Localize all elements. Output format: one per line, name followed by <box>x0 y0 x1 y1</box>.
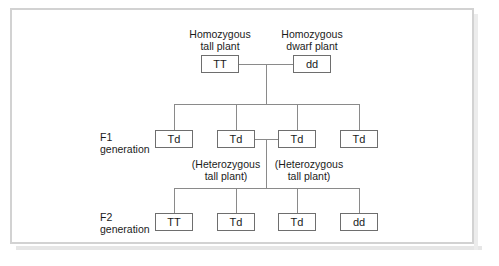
f1-drop-1 <box>174 104 175 130</box>
f1-drop-2 <box>236 104 237 130</box>
parent-left-caption-line1: Homozygous <box>180 28 260 40</box>
f2-drop-4 <box>359 188 360 213</box>
f2-drop-3 <box>297 188 298 213</box>
f1-annotation-1-line1: (Heterozygous <box>186 158 266 170</box>
f1-drop-4 <box>359 104 360 130</box>
f2-box-2[interactable]: Td <box>217 213 255 231</box>
f2-distribution-bus <box>174 188 359 189</box>
f1-box-4[interactable]: Td <box>340 130 378 148</box>
f1-row-label-line1: F1 <box>100 131 112 143</box>
f1-annotation-2-line2: tall plant) <box>269 170 349 182</box>
f2-drop-1 <box>174 188 175 213</box>
f1-distribution-bus <box>174 104 359 105</box>
f2-drop-2 <box>236 188 237 213</box>
f2-box-1[interactable]: TT <box>155 213 193 231</box>
f2-row-label-line1: F2 <box>100 211 112 223</box>
f1-annotation-2-line1: (Heterozygous <box>269 158 349 170</box>
f1-box-1[interactable]: Td <box>155 130 193 148</box>
parent-box-dd[interactable]: dd <box>293 55 331 73</box>
f1-box-2[interactable]: Td <box>217 130 255 148</box>
f2-row-label-line2: generation <box>100 223 150 235</box>
f1-to-f2-drop <box>266 139 267 188</box>
parent-right-caption-line1: Homozygous <box>270 28 354 40</box>
genetics-cross-diagram: Homozygous tall plant Homozygous dwarf p… <box>0 0 499 266</box>
f1-annotation-1-line2: tall plant) <box>186 170 266 182</box>
parent-to-f1-drop <box>266 64 267 104</box>
f1-drop-3 <box>297 104 298 130</box>
f2-box-3[interactable]: Td <box>278 213 316 231</box>
f1-row-label-line2: generation <box>100 143 150 155</box>
f2-box-4[interactable]: dd <box>340 213 378 231</box>
parent-left-caption-line2: tall plant <box>180 40 260 52</box>
parent-box-tt[interactable]: TT <box>201 55 239 73</box>
f1-box-3[interactable]: Td <box>278 130 316 148</box>
parent-right-caption-line2: dwarf plant <box>270 40 354 52</box>
diagram-page: Homozygous tall plant Homozygous dwarf p… <box>0 0 499 266</box>
